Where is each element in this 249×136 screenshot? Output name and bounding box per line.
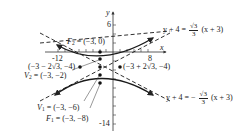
equation-upper-asymptote: y + 4 = √3 3 (x + 3) (163, 23, 223, 38)
point-center (98, 65, 102, 69)
fraction-sqrt3-over-3: √3 3 (199, 91, 208, 106)
label-right-point: (−3 + 2√3, −4) (123, 63, 170, 71)
point-right (118, 65, 122, 69)
equation-lower-asymptote: y + 4 = − √3 3 (x + 3) (166, 91, 233, 106)
label-F2: F2 = (−3, 0) (67, 38, 105, 47)
fraction-sqrt3-over-3: √3 3 (189, 23, 198, 38)
label-V2: V2 = (−3, −2) (24, 72, 67, 81)
x-axis-label: x (160, 44, 164, 52)
y-axis (113, 12, 116, 131)
y-tick-6: 6 (107, 21, 111, 29)
asymptote-upper (40, 31, 170, 43)
hyperbola-lower-branch (55, 79, 153, 96)
leader-V2 (72, 60, 99, 70)
label-V1: V1 = (−3, −6) (37, 104, 80, 113)
label-F1: F1 = (−3, −8) (46, 115, 89, 124)
label-left-point: (−3 − 2√3, −4) (28, 63, 75, 71)
y-axis-label: y (106, 9, 110, 17)
leader-F1 (90, 84, 100, 108)
point-F2 (98, 50, 102, 54)
y-tick-minus14: -14 (99, 120, 110, 128)
x-axis (45, 49, 166, 52)
